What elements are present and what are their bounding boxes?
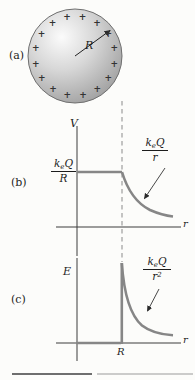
frac-denom: R (60, 172, 68, 184)
graph-b-y-axis-label: V (70, 118, 78, 129)
fraction-keQ-over-r-squared: keQ r2 (143, 256, 171, 282)
charge-plus-icon: + (110, 44, 118, 53)
graph-b-annotation-arrow (145, 168, 166, 199)
charge-plus-icon: + (32, 59, 40, 68)
charge-plus-icon: + (64, 91, 72, 100)
charge-plus-icon: + (93, 18, 101, 27)
fraction-keQ-over-r: keQ r (142, 137, 168, 163)
physics-figure: ++++++++++++++++ (a) R (b) V r keQ R keQ… (0, 0, 195, 380)
graph-c-x-axis-label: r (183, 335, 188, 345)
graph-b-curve (77, 172, 173, 217)
charge-plus-icon: + (110, 59, 118, 68)
graph-c-R-tick-label: R (117, 347, 125, 357)
graph-b-x-axis-label: r (183, 219, 188, 229)
frac-q: Q (158, 255, 167, 267)
panel-b-label: (b) (11, 177, 27, 188)
sphere-radius-label: R (85, 40, 93, 51)
charge-plus-icon: + (79, 12, 87, 21)
charged-sphere (28, 9, 122, 103)
panel-c-label: (c) (11, 294, 26, 305)
graph-c-y-axis-label: E (63, 266, 71, 277)
charge-plus-icon: + (105, 74, 113, 83)
figure-canvas (0, 0, 195, 380)
charge-plus-icon: + (49, 85, 57, 94)
charge-plus-icon: + (94, 85, 102, 94)
graph-c-annotation-arrow (148, 289, 160, 311)
charge-plus-icon: + (38, 74, 46, 83)
frac-denom-sup: 2 (157, 271, 161, 279)
charge-plus-icon: + (104, 29, 112, 38)
charge-plus-icon: + (49, 18, 57, 27)
charge-plus-icon: + (38, 29, 46, 38)
fraction-keQ-over-R: keQ R (51, 158, 76, 184)
frac-denom: r (152, 151, 157, 163)
charge-plus-icon: + (32, 44, 40, 53)
panel-a-label: (a) (9, 50, 24, 61)
frac-q: Q (156, 136, 165, 148)
frac-q: Q (64, 157, 73, 169)
charge-plus-icon: + (79, 91, 87, 100)
charge-plus-icon: + (63, 12, 71, 21)
